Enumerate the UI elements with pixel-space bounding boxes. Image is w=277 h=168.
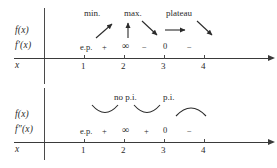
first-derivative-panel: min. max. plateau f(x) f′(x) x e.p. + ∞ …	[0, 0, 277, 84]
second-derivative-curves	[0, 84, 277, 168]
axis-number-4: 4	[201, 62, 206, 71]
row-label-function: f(x)	[15, 26, 29, 36]
curve-concave-up-2	[134, 105, 160, 113]
row-label-first-derivative: f′(x)	[15, 41, 31, 51]
row-label-variable-x: x	[15, 145, 19, 155]
sign-negative-1: −	[142, 43, 147, 52]
axis-number-2: 2	[121, 62, 126, 71]
tick-3	[164, 55, 165, 59]
horizontal-axis	[14, 142, 270, 143]
arrow-increasing-1	[96, 24, 112, 38]
sign-endpoint: e.p.	[80, 43, 92, 52]
sign-negative-2: −	[187, 43, 192, 52]
sign-positive-2: +	[144, 127, 149, 136]
curve-concave-down-1	[176, 108, 206, 116]
vertical-axis	[44, 8, 45, 84]
tick-1	[84, 139, 85, 143]
axis-number-1: 1	[81, 146, 86, 155]
first-derivative-arrows	[0, 0, 277, 84]
arrow-decreasing-1	[142, 21, 157, 35]
second-derivative-panel: no p.i. p.i. f(x) f″(x) x e.p. + ∞ + 0 −…	[0, 84, 277, 168]
axis-number-4: 4	[201, 146, 206, 155]
horizontal-axis	[14, 58, 270, 59]
tick-4	[204, 139, 205, 143]
axis-number-1: 1	[81, 62, 86, 71]
axis-number-2: 2	[121, 146, 126, 155]
figure-sign-charts: min. max. plateau f(x) f′(x) x e.p. + ∞ …	[0, 0, 277, 168]
row-label-function: f(x)	[15, 110, 29, 120]
arrow-decreasing-2	[197, 21, 212, 35]
tick-1	[84, 55, 85, 59]
tick-2	[124, 55, 125, 59]
curve-concave-up-1	[92, 105, 118, 113]
sign-zero: 0	[163, 126, 167, 135]
sign-infinite: ∞	[122, 41, 129, 51]
sign-zero: 0	[163, 42, 167, 51]
sign-positive-1: +	[102, 43, 107, 52]
axis-arrowhead	[268, 55, 275, 61]
sign-endpoint: e.p.	[80, 127, 92, 136]
axis-number-3: 3	[161, 146, 166, 155]
tick-3	[164, 139, 165, 143]
tick-2	[124, 139, 125, 143]
axis-arrowhead	[268, 139, 275, 145]
row-label-variable-x: x	[15, 61, 19, 71]
row-label-second-derivative: f″(x)	[15, 125, 33, 135]
sign-infinite: ∞	[122, 125, 129, 135]
sign-negative-1: −	[187, 127, 192, 136]
axis-number-3: 3	[161, 62, 166, 71]
sign-positive-1: +	[102, 127, 107, 136]
vertical-axis	[44, 88, 45, 160]
tick-4	[204, 55, 205, 59]
